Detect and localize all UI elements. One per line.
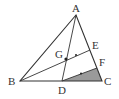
point-g-dot <box>64 57 67 60</box>
label-a: A <box>72 2 80 14</box>
tick-df <box>80 73 82 75</box>
label-c: C <box>104 75 111 87</box>
triangle-figure: A B C D E F G <box>0 0 119 99</box>
segment-ad <box>62 15 76 81</box>
label-g: G <box>55 48 63 60</box>
tick-ge <box>75 54 77 56</box>
label-e: E <box>92 39 99 51</box>
geometry-diagram: A B C D E F G <box>0 0 119 99</box>
label-b: B <box>8 75 15 87</box>
label-f: F <box>99 56 105 68</box>
label-d: D <box>58 84 66 96</box>
